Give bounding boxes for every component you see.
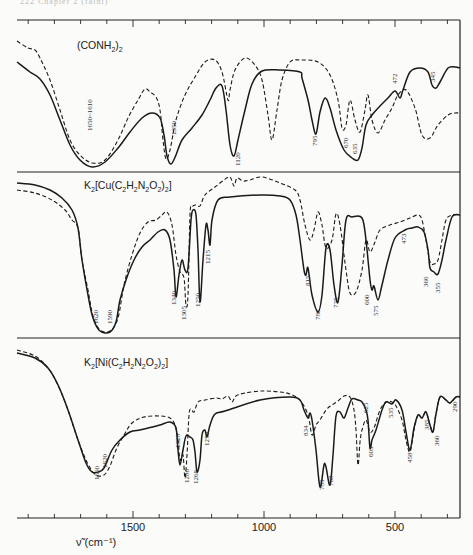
spectrum-curves [17, 41, 460, 487]
peak-label: 290 [451, 402, 459, 413]
peak-label: 1250 [194, 293, 202, 307]
panel-label-oxamide: (CONH2)2 [77, 39, 123, 53]
peak-label: 780 [314, 310, 322, 321]
peak-label: 1120 [234, 152, 242, 166]
peak-label: 458 [406, 453, 414, 464]
axis-units: (cm⁻¹) [82, 536, 117, 548]
peak-label: 603 [367, 447, 375, 458]
peak-label: 625 [362, 403, 370, 414]
peak-label: 366 [422, 277, 430, 288]
label-subscript: 2 [119, 46, 123, 53]
peak-label: 815 [304, 276, 312, 287]
peak-label: 1590 [106, 310, 114, 324]
peak-label: 768 [327, 476, 335, 487]
peak-label: 360 [433, 436, 441, 447]
peak-label: 635 [351, 144, 359, 155]
peak-label: 473 [400, 234, 408, 245]
peak-label: 385 [423, 420, 431, 431]
peak-label: 600 [363, 295, 371, 306]
x-axis-title: ν̃ (cm⁻¹) [76, 536, 116, 549]
peak-label: 1620 [101, 454, 109, 468]
peak-label: 1350 [170, 121, 178, 135]
peak-label: 1250 [203, 432, 211, 446]
spectrum-dashed-panel-2 [17, 177, 460, 332]
panel-label-cu-complex: K2[Cu(C2H2N2O2)2] [84, 179, 172, 193]
peak-label: 345 [429, 72, 437, 83]
peak-label: 1620 [92, 310, 100, 324]
peak-label: 535 [387, 408, 395, 419]
panel-label-ni-complex: K2[Ni(C2H2N2O2)2] [84, 356, 168, 370]
ir-spectra-chart [0, 0, 473, 555]
peak-label: 785 [318, 480, 326, 491]
peak-label: 1286 [183, 469, 191, 483]
peak-label: 575 [372, 306, 380, 317]
spectrum-dashed-panel-1 [17, 41, 460, 163]
x-tick-label: 1500 [121, 521, 145, 533]
peak-label: 1268 [192, 470, 200, 484]
label-text: (CONH [77, 39, 111, 51]
peak-label: 795 [311, 136, 319, 147]
spectrum-solid-panel-2 [17, 183, 460, 333]
peak-label: 472 [391, 74, 399, 85]
axis-ticks [28, 20, 447, 518]
peak-label: 1215 [204, 250, 212, 264]
x-tick-label: 1000 [252, 521, 276, 533]
peak-label: 355 [434, 283, 442, 294]
spectrum-solid-panel-3 [17, 353, 460, 487]
peak-label: 1650~1610 [86, 99, 94, 131]
page-header: 222 Chapter 2 (faint) [20, 0, 108, 6]
peak-label: 1305 [180, 306, 188, 320]
peak-label: 1340 [170, 291, 178, 305]
x-tick-label: 500 [386, 521, 404, 533]
peak-label: 1660 [93, 466, 101, 480]
peak-label: 834 [302, 426, 310, 437]
peak-label: 1328 [174, 434, 182, 448]
peak-label: 725 [332, 298, 340, 309]
peak-label: 670 [342, 138, 350, 149]
